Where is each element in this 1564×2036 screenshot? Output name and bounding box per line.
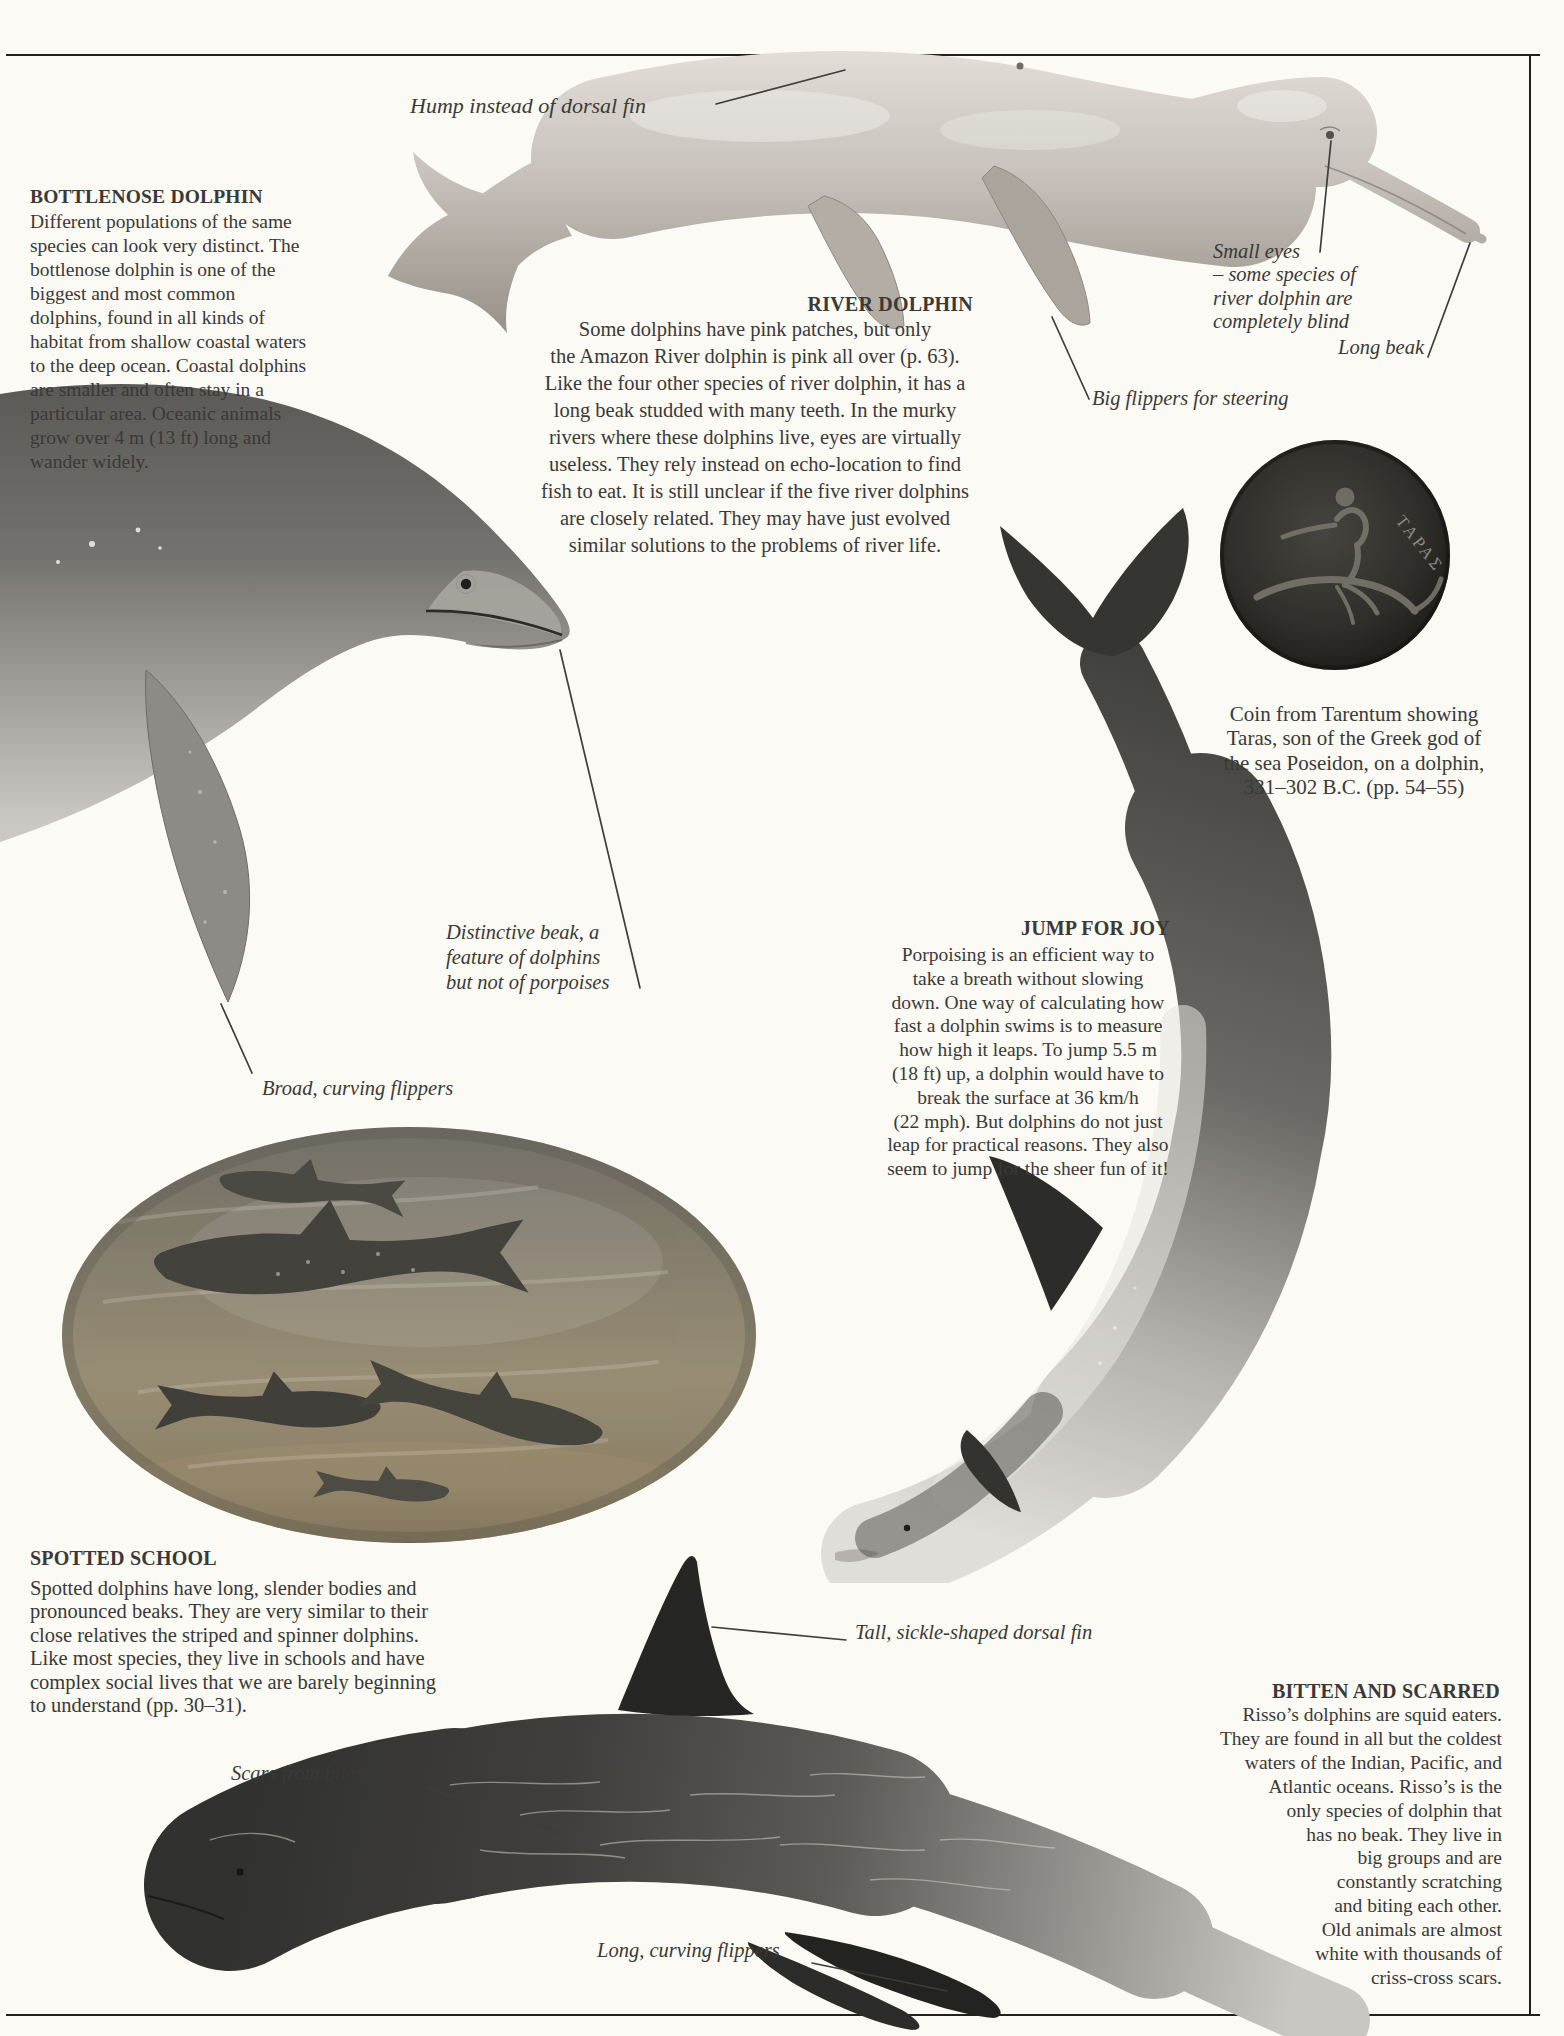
river-dolphin-blowhole: [1017, 63, 1024, 70]
distinctive-beak-annotation: Distinctive beak, a feature of dolphins …: [446, 920, 609, 995]
bottlenose-eye: [461, 579, 471, 589]
river-dolphin-eye: [1326, 131, 1334, 139]
book-page: ΤΑΡΑΣ: [0, 0, 1564, 2036]
jump-section-heading: JUMP FOR JOY: [1021, 917, 1170, 940]
river-section-body: Some dolphins have pink patches, but onl…: [490, 316, 1020, 559]
page-border-right: [1529, 54, 1531, 2016]
river-dolphin-beak: [1312, 146, 1468, 231]
long-flippers-annotation: Long, curving flippers: [597, 1939, 780, 1963]
river-section-heading: RIVER DOLPHIN: [808, 293, 973, 316]
jumping-dolphin-fluke: [1000, 508, 1189, 656]
broad-flippers-annotation: Broad, curving flippers: [262, 1077, 453, 1101]
spotted-dolphin-school-photo: [58, 1122, 760, 1548]
big-flippers-annotation: Big flippers for steering: [1092, 387, 1288, 411]
jump-section-body: Porpoising is an efficient way to take a…: [860, 943, 1196, 1181]
bottlenose-section-heading: BOTTLENOSE DOLPHIN: [30, 186, 263, 208]
hump-annotation: Hump instead of dorsal fin: [410, 94, 646, 118]
spotted-section-heading: SPOTTED SCHOOL: [30, 1547, 217, 1570]
rissos-eye: [236, 1868, 243, 1875]
coin-caption: Coin from Tarentum showing Taras, son of…: [1158, 702, 1550, 799]
scars-annotation: Scars from bites: [231, 1762, 364, 1786]
bottlenose-section-body: Different populations of the same specie…: [30, 210, 306, 474]
rissos-dorsal-fin: [618, 1556, 754, 1716]
bitten-section-heading: BITTEN AND SCARRED: [1272, 1680, 1500, 1703]
long-beak-annotation: Long beak: [1338, 336, 1424, 360]
bottlenose-dolphin-body: [0, 384, 570, 1002]
dorsal-fin-annotation: Tall, sickle-shaped dorsal fin: [855, 1621, 1092, 1645]
spotted-section-body: Spotted dolphins have long, slender bodi…: [30, 1577, 436, 1717]
bitten-section-body: Risso’s dolphins are squid eaters. They …: [1220, 1703, 1502, 1990]
small-eyes-annotation: Small eyes – some species of river dolph…: [1213, 240, 1356, 333]
jumping-dolphin-eye: [904, 1525, 910, 1531]
